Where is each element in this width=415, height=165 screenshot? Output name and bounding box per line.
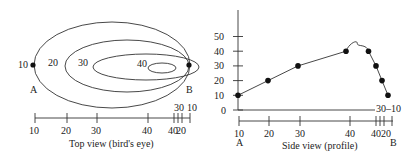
- profile-point: [373, 63, 379, 69]
- top-axis-tick-label: 20: [176, 125, 186, 136]
- y-tick-label: 10: [214, 90, 224, 101]
- contour-label-30: 30: [78, 57, 88, 68]
- top-axis-tick-label: 10: [29, 125, 39, 136]
- figure: 10 20 30 40 A B 30 10 102030404020 Top v…: [0, 0, 415, 165]
- profile-points: [235, 48, 391, 98]
- top-axis-tick-label: 30: [91, 125, 101, 136]
- top-axis-label-10: 10: [187, 102, 197, 113]
- side-axis-ticks: 102030404020: [234, 116, 392, 139]
- y-tick-label: 30: [214, 60, 224, 71]
- profile-line: [238, 42, 388, 96]
- side-axis-tick-label: 40: [371, 128, 381, 139]
- profile-point: [235, 93, 241, 99]
- contour-label-20: 20: [48, 57, 58, 68]
- y-tick-label: 20: [214, 75, 224, 86]
- side-axis-label-30-10: 30–10: [376, 103, 401, 114]
- y-axis-ticks: 01020304050: [214, 31, 243, 116]
- contour-label-10: 10: [18, 59, 28, 70]
- top-view-caption: Top view (bird's eye): [69, 138, 154, 150]
- contour-label-40: 40: [137, 58, 147, 69]
- profile-point: [295, 63, 301, 69]
- side-view-caption: Side view (profile): [282, 140, 358, 152]
- top-axis-ticks: 102030404020: [29, 113, 190, 136]
- point-b-label: B: [186, 84, 193, 95]
- top-axis-label-30: 30: [174, 102, 184, 113]
- y-tick-label: 0: [221, 105, 226, 116]
- side-axis-tick-label: 30: [295, 128, 305, 139]
- side-point-b-label: B: [390, 137, 397, 148]
- side-view-panel: 01020304050 30–10 102030404020 A B Side …: [214, 10, 401, 152]
- y-tick-label: 50: [214, 31, 224, 42]
- point-a-marker: [30, 62, 35, 67]
- profile-point: [265, 78, 271, 84]
- top-axis-tick-label: 20: [61, 125, 71, 136]
- profile-point: [343, 48, 349, 54]
- top-axis-tick-label: 40: [142, 125, 152, 136]
- profile-point: [379, 78, 385, 84]
- top-view-panel: 10 20 30 40 A B 30 10 102030404020 Top v…: [18, 22, 199, 150]
- side-axis-tick-label: 40: [345, 128, 355, 139]
- side-point-a-label: A: [236, 137, 244, 148]
- side-axis-tick-label: 20: [264, 128, 274, 139]
- y-tick-label: 40: [214, 46, 224, 57]
- point-b-marker: [186, 62, 191, 67]
- profile-point: [385, 93, 391, 99]
- point-a-label: A: [30, 84, 38, 95]
- contour-40: [148, 63, 176, 73]
- profile-point: [366, 48, 372, 54]
